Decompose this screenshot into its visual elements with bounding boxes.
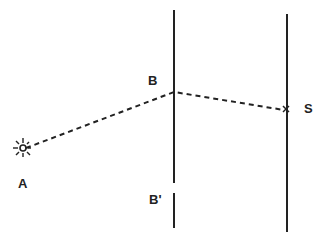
label-slit-bottom: B' (149, 192, 161, 207)
light-source-icon (13, 138, 31, 157)
diagram-canvas: A B B' S (0, 0, 321, 239)
label-slit-top: B (148, 73, 157, 88)
light-ray (26, 92, 284, 148)
label-source: A (18, 176, 28, 191)
label-screen-point: S (304, 101, 313, 116)
